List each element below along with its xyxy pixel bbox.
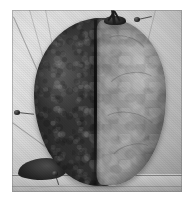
pale-lobe [96, 20, 166, 185]
table-edge-secondary [12, 186, 182, 187]
specimen-photograph [12, 10, 182, 192]
median-fissure [94, 20, 97, 180]
caption-area [0, 192, 195, 205]
organ-specimen [34, 18, 166, 186]
page-root [0, 0, 195, 205]
